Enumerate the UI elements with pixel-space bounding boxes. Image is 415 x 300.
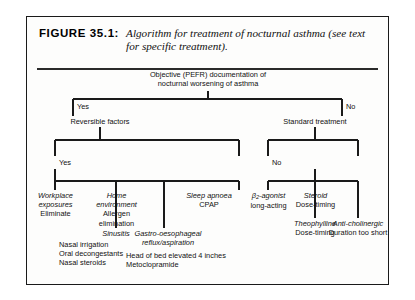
node-gastro-detail-1: Head of bed elevated 4 inches xyxy=(126,251,266,260)
node-home-environment: Home environment Allergen elimination xyxy=(88,191,145,228)
node-workplace-exposures: Workplace exposures Eliminate xyxy=(27,191,84,219)
label-level2-no: No xyxy=(272,158,281,167)
node-home-detail: Allergen xyxy=(88,209,145,218)
figure-caption-text: Algorithm for treatment of nocturnal ast… xyxy=(126,27,376,52)
node-steroid-title: Steroid xyxy=(287,191,344,200)
node-workplace-title: Workplace xyxy=(27,191,84,200)
node-root-line2: nocturnal worsening of asthma xyxy=(123,79,293,88)
node-standard-treatment: Standard treatment xyxy=(267,117,363,126)
node-anti-cholinergic-detail: Duration too short xyxy=(316,228,400,237)
node-steroid: Steroid Dose-timing xyxy=(287,191,344,209)
node-gastro-detail-2: Metoclopramide xyxy=(126,260,266,269)
label-level1-yes: Yes xyxy=(77,102,89,111)
beta-title-rest: -agonist xyxy=(259,191,285,200)
node-sleep-apnoea-detail: CPAP xyxy=(178,200,240,209)
label-level2-yes: Yes xyxy=(59,158,71,167)
node-workplace-detail: Eliminate xyxy=(27,209,84,218)
node-gastro-oesophageal: Gastro-oesophageal reflux/aspiration xyxy=(127,229,209,247)
node-reversible-factors: Reversible factors xyxy=(50,117,150,126)
node-steroid-detail: Dose-timing xyxy=(287,200,344,209)
flowchart: Objective (PEFR) documentation of noctur… xyxy=(27,70,388,284)
label-level1-no: No xyxy=(346,102,355,111)
node-workplace-title2: exposures xyxy=(27,200,84,209)
node-root-line1: Objective (PEFR) documentation of xyxy=(123,70,293,79)
node-gastro-title2: reflux/aspiration xyxy=(127,238,209,247)
figure-number-label: FIGURE 35.1: xyxy=(39,27,126,39)
node-home-detail2: elimination xyxy=(88,219,145,228)
node-sleep-apnoea: Sleep apnoea CPAP xyxy=(178,191,240,209)
node-sleep-apnoea-title: Sleep apnoea xyxy=(178,191,240,200)
node-gastro-title: Gastro-oesophageal xyxy=(127,229,209,238)
node-anti-cholinergic-title: Anti-cholinergic xyxy=(316,219,400,228)
figure-caption: FIGURE 35.1: Algorithm for treatment of … xyxy=(39,27,376,52)
node-home-title: Home xyxy=(88,191,145,200)
node-home-title2: environment xyxy=(88,200,145,209)
node-root: Objective (PEFR) documentation of noctur… xyxy=(123,70,293,88)
node-gastro-details: Head of bed elevated 4 inches Metoclopra… xyxy=(126,251,266,269)
node-anti-cholinergic: Anti-cholinergic Duration too short xyxy=(316,219,400,237)
figure-box: FIGURE 35.1: Algorithm for treatment of … xyxy=(26,16,389,285)
beta-subscript: 2 xyxy=(256,194,259,200)
